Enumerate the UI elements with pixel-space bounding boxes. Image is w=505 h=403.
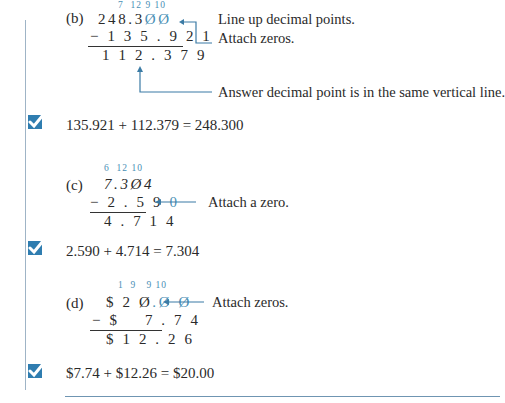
note-attach-zeros: Attach zeros. (212, 294, 289, 311)
minuend: 248.3ØØ (98, 11, 172, 28)
check-equation: $7.74 + $12.26 = $20.00 (66, 365, 214, 382)
answer: 1 1 2 . 3 7 9 (102, 47, 207, 64)
note-attach-zeros: Attach zeros. (218, 30, 295, 47)
note-attach-zero: Attach a zero. (208, 194, 289, 211)
borrow-marks: 6 12 10 (104, 163, 143, 173)
margin-line (25, 20, 26, 390)
check-equation: 2.590 + 4.714 = 7.304 (66, 243, 199, 260)
answer: 4 . 7 1 4 (104, 213, 176, 230)
arrow-left-icon (162, 295, 206, 309)
note-answer-decimal: Answer decimal point is in the same vert… (218, 84, 505, 101)
borrow-marks: 7 12 9 10 (118, 0, 166, 10)
minuend: 7.3Ø4 (104, 176, 154, 193)
checkmark-icon (28, 241, 42, 255)
checkmark-icon (28, 364, 42, 378)
arrow-left-icon (154, 195, 198, 209)
example-label: (d) (66, 295, 84, 312)
section-divider (65, 396, 500, 397)
example-label: (b) (66, 10, 84, 27)
arrow-left-icon (178, 14, 214, 48)
checkmark-icon (28, 115, 42, 129)
check-equation: 135.921 + 112.379 = 248.300 (66, 117, 244, 134)
answer: $ 1 2 . 2 6 (106, 331, 195, 348)
subtrahend: − $ 7 . 7 4 (92, 312, 201, 329)
note-line-up: Line up decimal points. (218, 11, 355, 28)
example-label: (c) (66, 177, 83, 194)
borrow-marks: 1 9 9 10 (118, 280, 167, 290)
arrow-up-icon (134, 64, 214, 96)
